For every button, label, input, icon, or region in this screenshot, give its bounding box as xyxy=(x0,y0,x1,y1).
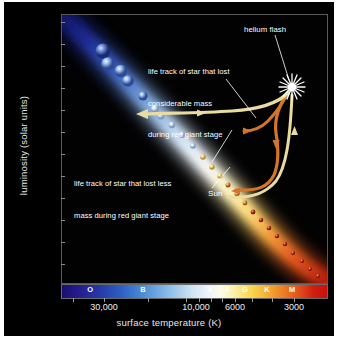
x-tick-3000: 3000 xyxy=(264,302,324,312)
hr-diagram-figure: 106 105 104 103 102 10 1 0.1 10−2 10−3 1… xyxy=(4,2,334,336)
leader-less-mass xyxy=(212,130,232,162)
spectral-label-K: K xyxy=(260,285,274,294)
spectral-label-O: O xyxy=(83,285,97,294)
x-tick-30000: 30,000 xyxy=(74,302,134,312)
x-axis-title: surface temperature (K) xyxy=(4,317,334,328)
spectral-label-F: F xyxy=(221,285,235,294)
spectral-label-M: M xyxy=(285,285,299,294)
leader-helium-flash xyxy=(275,35,289,80)
spectral-label-B: B xyxy=(136,285,150,294)
spectral-label-G: G xyxy=(238,285,252,294)
y-axis-title: luminosity (solar units) xyxy=(18,61,29,231)
x-tickmark xyxy=(148,298,149,302)
leader-considerable-mass xyxy=(226,79,256,118)
leader-sun xyxy=(212,167,230,188)
x-tick-6000: 6000 xyxy=(205,302,265,312)
spectral-label-A: A xyxy=(203,285,217,294)
